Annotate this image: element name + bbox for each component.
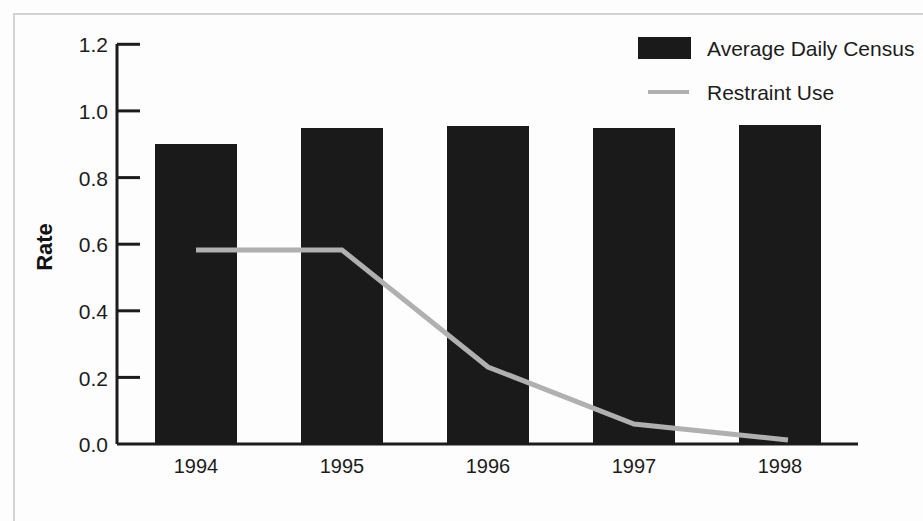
- bar-1996: [447, 126, 529, 444]
- x-tick-label: 1995: [320, 455, 365, 477]
- y-tick-label: 0.4: [79, 300, 109, 323]
- y-axis-title: Rate: [32, 223, 57, 271]
- x-tick-label: 1994: [174, 455, 219, 477]
- y-tick-label: 0.8: [79, 167, 108, 190]
- y-tick-label: 0.2: [79, 367, 108, 390]
- x-axis-tick-labels: 1994 1995 1996 1997 1998: [174, 455, 803, 477]
- y-tick-label: 1.0: [79, 100, 108, 123]
- bar-1997: [593, 128, 675, 444]
- bar-1998: [739, 125, 821, 444]
- legend-swatch-bar: [638, 37, 691, 59]
- chart-plot-area: 1.2 1.0 0.8 0.6 0.4 0.2 0.0 Rate 1994 19…: [0, 0, 923, 521]
- chart-legend: Average Daily Census Restraint Use: [638, 37, 914, 104]
- y-tick-label: 0.0: [79, 433, 108, 456]
- x-tick-label: 1996: [466, 455, 511, 477]
- y-tick-label: 0.6: [79, 233, 108, 256]
- x-tick-label: 1997: [612, 455, 657, 477]
- x-tick-label: 1998: [758, 455, 803, 477]
- legend-label-average-daily-census: Average Daily Census: [707, 37, 914, 60]
- legend-label-restraint-use: Restraint Use: [707, 81, 834, 104]
- chart-figure: 1.2 1.0 0.8 0.6 0.4 0.2 0.0 Rate 1994 19…: [0, 0, 923, 521]
- bar-series-average-daily-census: [155, 125, 821, 444]
- bar-1994: [155, 144, 237, 444]
- y-axis-ticks: [117, 44, 140, 377]
- bar-1995: [301, 128, 383, 444]
- y-axis-tick-labels: 1.2 1.0 0.8 0.6 0.4 0.2 0.0: [79, 33, 109, 456]
- y-tick-label: 1.2: [79, 33, 108, 56]
